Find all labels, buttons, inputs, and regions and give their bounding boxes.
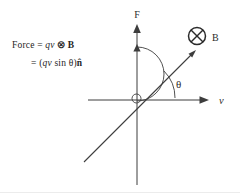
theta-angle-arc <box>164 71 175 98</box>
formula1-b-vector: B <box>68 40 75 50</box>
formula-line-1: Force = qv⊗B <box>12 38 74 50</box>
f-axis-arrowhead-icon <box>133 24 141 33</box>
formula2-qv: qv <box>43 58 52 68</box>
rotation-arc-arrowhead-icon <box>133 44 140 52</box>
b-vector-line <box>84 54 193 163</box>
into-page-otimes-icon <box>189 28 206 45</box>
formula1-lhs: Force = <box>12 40 45 50</box>
v-axis-arrowhead-icon <box>200 96 210 104</box>
f-axis-label: F <box>134 9 140 20</box>
theta-angle-label: θ <box>176 78 181 90</box>
formula2-sin: sin <box>52 58 69 68</box>
b-field-label: B <box>212 32 219 43</box>
formula2-unit-normal: n̂ <box>77 58 82 68</box>
v-axis-label: v <box>219 95 224 106</box>
formula2-eq-open: = ( <box>31 58 43 68</box>
formula1-qv: qv <box>45 40 54 50</box>
rotation-arc <box>137 47 164 101</box>
diagram-canvas: F v θ B <box>0 0 240 192</box>
formula-line-2: = (qv sin θ)n̂ <box>31 58 82 68</box>
physics-force-diagram: F v θ B Force = qv⊗B = (qv sin θ)n̂ <box>0 0 240 193</box>
cross-product-otimes-icon: ⊗ <box>57 38 66 50</box>
